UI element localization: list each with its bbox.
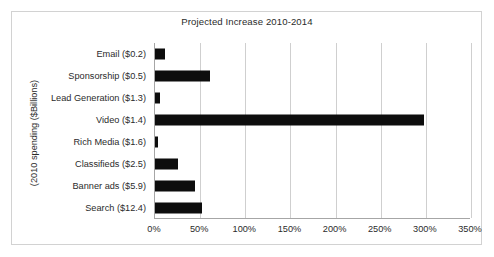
bar — [155, 181, 195, 192]
y-axis-tick-label: Search ($12.4) — [85, 203, 146, 213]
gridline — [426, 43, 427, 218]
plot-area — [154, 43, 470, 219]
y-axis-tick-label: Classifieds ($2.5) — [75, 159, 146, 169]
x-axis-tick-label: 150% — [278, 224, 302, 234]
x-axis-tick-label: 300% — [413, 224, 437, 234]
x-axis-tick-label: 50% — [190, 224, 208, 234]
gridline — [290, 43, 291, 218]
gridline — [245, 43, 246, 218]
x-axis-tick-label: 250% — [368, 224, 392, 234]
gridline — [471, 43, 472, 218]
y-axis-tick-label: Email ($0.2) — [96, 49, 146, 59]
bar — [155, 93, 160, 104]
x-axis-tick-labels: 0%50%100%150%200%250%300%350% — [154, 224, 470, 238]
x-axis-tick-label: 100% — [233, 224, 257, 234]
bar — [155, 159, 178, 170]
bar — [155, 49, 165, 60]
bar — [155, 71, 210, 82]
x-axis-tick-label: 200% — [323, 224, 347, 234]
chart-title: Projected Increase 2010-2014 — [0, 16, 494, 27]
bar — [155, 115, 424, 126]
y-axis-tick-label: Lead Generation ($1.3) — [51, 93, 146, 103]
y-axis-tick-label: Rich Media ($1.6) — [73, 137, 146, 147]
x-axis-tick-label: 350% — [458, 224, 482, 234]
y-axis-tick-label: Video ($1.4) — [96, 115, 146, 125]
gridline — [381, 43, 382, 218]
y-axis-tick-label: Banner ads ($5.9) — [72, 181, 146, 191]
y-axis-tick-label: Sponsorship ($0.5) — [68, 71, 146, 81]
gridline — [200, 43, 201, 218]
gridline — [336, 43, 337, 218]
bar — [155, 137, 158, 148]
x-axis-tick-label: 0% — [147, 224, 160, 234]
bar — [155, 203, 202, 214]
chart-figure: Projected Increase 2010-2014 (2010 spend… — [0, 0, 494, 257]
y-axis-tick-labels: Email ($0.2)Sponsorship ($0.5)Lead Gener… — [24, 43, 150, 219]
